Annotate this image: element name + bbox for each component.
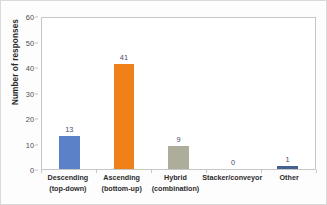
- x-category-label-line2: (combination): [149, 184, 203, 195]
- y-tick-label: 30: [14, 89, 34, 98]
- bar-value-label: 0: [206, 158, 261, 167]
- y-tick-label: 20: [14, 115, 34, 124]
- x-tick-mark: [316, 170, 317, 173]
- y-tick-label: 0: [14, 166, 34, 175]
- y-tick-label: 60: [14, 13, 34, 22]
- x-category-label-line1: Other: [280, 173, 299, 182]
- x-category-label: Stacker/conveyor: [202, 172, 262, 202]
- y-axis-ticks: 0102030405060: [18, 17, 38, 170]
- bar-value-label: 9: [151, 135, 206, 144]
- bar[interactable]: [168, 146, 189, 169]
- bar[interactable]: [277, 166, 298, 169]
- plot-area: 1341901: [41, 17, 316, 170]
- x-axis-labels: Descending(top-down)Ascending(bottom-up)…: [41, 172, 316, 202]
- y-tick-label: 10: [14, 140, 34, 149]
- x-category-label: Ascending(bottom-up): [95, 172, 149, 202]
- y-tick-mark: [35, 42, 38, 43]
- bar-group[interactable]: 1: [260, 18, 315, 169]
- x-category-label-line2: (bottom-up): [95, 184, 149, 195]
- x-category-label: Descending(top-down): [41, 172, 95, 202]
- bar-chart: Number of responses 0102030405060 134190…: [0, 0, 327, 205]
- y-tick-mark: [35, 93, 38, 94]
- bar[interactable]: [114, 64, 135, 169]
- x-category-label: Hybrid(combination): [149, 172, 203, 202]
- y-tick-mark: [35, 119, 38, 120]
- x-category-label-line2: (top-down): [41, 184, 95, 195]
- bar-group[interactable]: 9: [151, 18, 206, 169]
- bar[interactable]: [59, 136, 80, 169]
- y-tick-mark: [35, 17, 38, 18]
- x-category-label-line1: Stacker/conveyor: [202, 173, 262, 182]
- x-category-label: Other: [262, 172, 316, 202]
- y-tick-mark: [35, 68, 38, 69]
- bar-value-label: 13: [42, 125, 97, 134]
- x-category-label-line1: Hybrid: [164, 173, 187, 182]
- bar-group[interactable]: 0: [206, 18, 261, 169]
- bar-value-label: 41: [97, 53, 152, 62]
- y-tick-label: 50: [14, 38, 34, 47]
- x-category-label-line1: Descending: [48, 173, 89, 182]
- bar-group[interactable]: 41: [97, 18, 152, 169]
- y-tick-mark: [35, 170, 38, 171]
- bar-value-label: 1: [260, 155, 315, 164]
- bar-group[interactable]: 13: [42, 18, 97, 169]
- plot-inner: 1341901: [42, 18, 315, 169]
- x-category-label-line1: Ascending: [103, 173, 140, 182]
- bars-layer: 1341901: [42, 18, 315, 169]
- y-tick-mark: [35, 144, 38, 145]
- y-tick-label: 40: [14, 64, 34, 73]
